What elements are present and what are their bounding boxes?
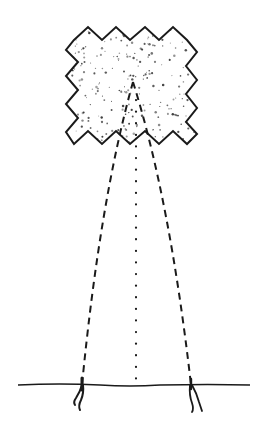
- right-string: [133, 82, 191, 385]
- left-stake: [74, 378, 83, 410]
- ground-line: [18, 384, 250, 386]
- kite-sketch-canvas: [0, 0, 272, 432]
- left-string: [82, 82, 133, 385]
